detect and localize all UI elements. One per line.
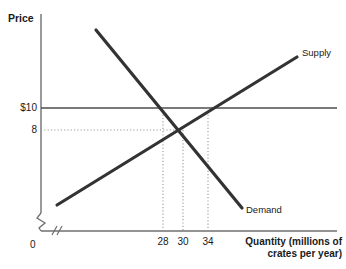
y-tick-label-10: $10 bbox=[11, 102, 37, 114]
x-tick-label-34: 34 bbox=[199, 236, 217, 248]
x-tick-label-28: 28 bbox=[154, 236, 172, 248]
origin-label: 0 bbox=[30, 239, 36, 251]
quantity-axis-title: Quantity (millions of crates per year) bbox=[232, 236, 342, 259]
supply-demand-plot bbox=[0, 0, 346, 269]
y-tick-label-8: 8 bbox=[11, 124, 37, 136]
supply-curve-label: Supply bbox=[302, 48, 331, 59]
chart-canvas: Price $10 8 0 28 30 34 Supply Demand Qua… bbox=[0, 0, 346, 269]
y-axis-break-mark bbox=[37, 213, 45, 231]
demand-curve bbox=[96, 30, 242, 208]
x-tick-label-30: 30 bbox=[174, 236, 192, 248]
demand-curve-label: Demand bbox=[246, 205, 282, 216]
price-axis-title: Price bbox=[8, 12, 34, 24]
